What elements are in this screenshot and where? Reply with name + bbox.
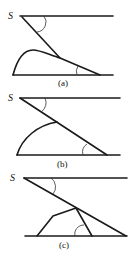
panel-label-c: (c) bbox=[59, 240, 69, 250]
arc-curve-b bbox=[17, 122, 57, 155]
source-label-b: S bbox=[8, 92, 13, 103]
angle-arc-top-a bbox=[37, 16, 46, 32]
angle-arc-bottom-b bbox=[83, 144, 87, 155]
source-label-c: S bbox=[10, 172, 15, 183]
ray-c bbox=[24, 178, 126, 236]
panel-label-b: (b) bbox=[57, 159, 68, 169]
ray-b bbox=[20, 98, 107, 155]
panel-b: S (b) bbox=[8, 92, 120, 169]
diagram-canvas: S (a) S (b) S (c) bbox=[0, 0, 134, 257]
panel-label-a: (a) bbox=[58, 78, 68, 88]
source-label-a: S bbox=[8, 10, 13, 21]
angle-arc-top-c bbox=[51, 178, 56, 194]
angle-arc-top-b bbox=[41, 98, 46, 112]
angle-arc-bottom-a bbox=[76, 66, 78, 75]
panel-a: S (a) bbox=[8, 10, 113, 88]
angle-arc-bottom-c bbox=[75, 225, 84, 236]
panel-c: S (c) bbox=[10, 172, 127, 250]
